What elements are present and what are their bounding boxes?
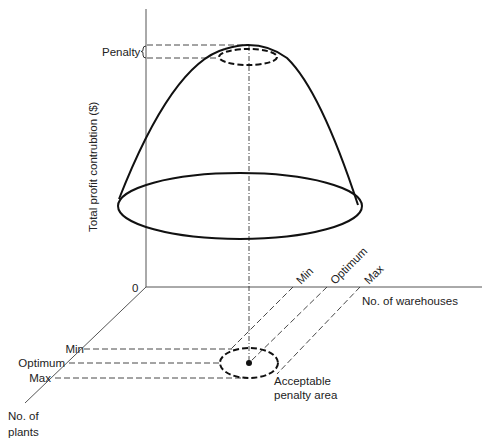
warehouse-max-line bbox=[277, 287, 360, 374]
penalty-label: Penalty bbox=[102, 46, 141, 58]
profit-surface-diagram: Total profit contrubtion ($) 0 Penalty N… bbox=[0, 0, 491, 447]
plants-axis-label-line2: plants bbox=[8, 426, 39, 438]
acceptable-area-label-line2: penalty area bbox=[274, 389, 338, 401]
base-ellipse bbox=[118, 173, 362, 239]
warehouse-axis-label: No. of warehouses bbox=[362, 295, 458, 307]
plant-tick-min: Min bbox=[65, 343, 84, 355]
profit-surface bbox=[118, 45, 362, 239]
bell-right-edge bbox=[248, 45, 358, 205]
acceptable-penalty-area bbox=[220, 348, 278, 378]
acceptable-area-label-line1: Acceptable bbox=[274, 375, 331, 387]
z-axis-plants bbox=[25, 287, 146, 403]
plant-tick-optimum: Optimum bbox=[18, 357, 65, 369]
optimum-point bbox=[246, 360, 252, 366]
warehouse-optimum-line bbox=[249, 287, 327, 363]
warehouse-min-line bbox=[231, 287, 293, 349]
plants-axis-label-line1: No. of bbox=[8, 410, 39, 422]
warehouse-tick-max: Max bbox=[362, 262, 386, 286]
warehouse-tick-min: Min bbox=[294, 265, 316, 287]
y-axis-label: Total profit contrubtion ($) bbox=[87, 101, 99, 232]
labels: Total profit contrubtion ($) 0 Penalty N… bbox=[8, 46, 458, 438]
origin-label: 0 bbox=[132, 282, 138, 294]
penalty-ellipse-top bbox=[219, 49, 277, 65]
penalty-brace bbox=[141, 46, 146, 58]
plant-tick-max: Max bbox=[29, 372, 51, 384]
